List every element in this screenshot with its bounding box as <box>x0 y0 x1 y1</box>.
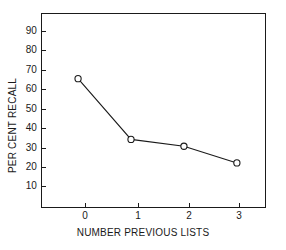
y-tick-label-60: 60 <box>26 84 37 94</box>
y-tick-label-80: 80 <box>26 45 37 55</box>
figure: PER CENT RECALL 90 80 70 60 50 40 30 20 … <box>0 0 286 250</box>
x-tick-label-1: 1 <box>135 211 141 221</box>
x-tick-label-0: 0 <box>82 211 88 221</box>
x-tick-label-3: 3 <box>236 211 242 221</box>
y-tick-label-50: 50 <box>26 104 37 114</box>
y-tick-label-30: 30 <box>26 143 37 153</box>
series-line <box>78 79 237 163</box>
x-tick-label-2: 2 <box>186 211 192 221</box>
y-tick-label-70: 70 <box>26 65 37 75</box>
data-point-marker <box>75 76 81 82</box>
data-series-layer <box>41 13 266 208</box>
y-axis-title: PER CENT RECALL <box>6 0 20 250</box>
y-tick-label-20: 20 <box>26 162 37 172</box>
y-tick-label-10: 10 <box>26 181 37 191</box>
y-axis-title-text: PER CENT RECALL <box>8 77 19 172</box>
series-markers <box>75 76 240 166</box>
x-axis-title: NUMBER PREVIOUS LISTS <box>0 228 286 238</box>
data-point-marker <box>181 143 187 149</box>
y-tick-label-40: 40 <box>26 123 37 133</box>
data-point-marker <box>128 136 134 142</box>
data-point-marker <box>234 160 240 166</box>
y-tick-label-90: 90 <box>26 26 37 36</box>
